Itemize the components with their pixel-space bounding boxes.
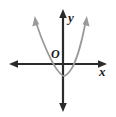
- parabola-left-arrow-icon: [32, 16, 39, 26]
- origin-label: O: [51, 48, 60, 60]
- parabola-curve: [37, 24, 86, 76]
- y-axis-up-arrow-icon: [59, 9, 67, 18]
- x-axis-label: x: [99, 65, 106, 78]
- x-axis-left-arrow-icon: [9, 60, 18, 68]
- coordinate-graph-figure: y x O: [0, 0, 116, 117]
- parabola-right-arrow-icon: [83, 16, 90, 26]
- y-axis-label: y: [68, 11, 74, 24]
- y-axis-down-arrow-icon: [59, 103, 67, 112]
